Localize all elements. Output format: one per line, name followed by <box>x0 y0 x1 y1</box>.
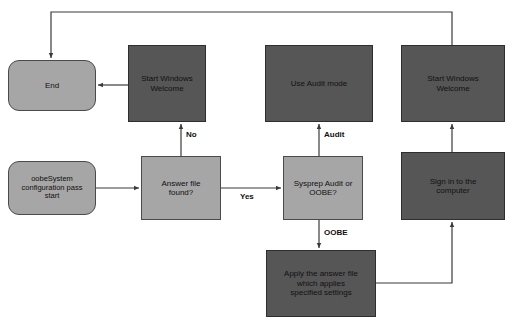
node-sysprep-audit-or-oobe[interactable]: Sysprep Audit or OOBE? <box>283 156 363 220</box>
node-use-audit-mode-label: Use Audit mode <box>291 79 347 88</box>
node-start-windows-welcome-1-label: Start Windows Welcome <box>141 74 193 93</box>
node-start-windows-welcome-1[interactable]: Start Windows Welcome <box>128 45 206 122</box>
node-start-windows-welcome-2-label: Start Windows Welcome <box>427 74 479 93</box>
node-sign-in-to-computer-label: Sign in to the computer <box>430 177 477 196</box>
node-sysprep-audit-or-oobe-label: Sysprep Audit or OOBE? <box>294 179 353 198</box>
node-end[interactable]: End <box>8 60 96 111</box>
edge-label-audit: Audit <box>324 131 344 139</box>
flowchart-canvas: Start Windows Welcome (1) --> Sysprep Au… <box>0 0 514 334</box>
node-apply-answer-file[interactable]: Apply the answer file which applies spec… <box>266 250 376 317</box>
edge-applyanswerfile-to-signin <box>376 222 452 283</box>
node-answer-file-found[interactable]: Answer file found? <box>141 156 221 220</box>
edge-label-oobe: OOBE <box>324 229 348 237</box>
node-answer-file-found-label: Answer file found? <box>161 179 200 198</box>
node-oobesystem-start-label: oobeSystem configuration pass start <box>22 175 83 202</box>
node-apply-answer-file-label: Apply the answer file which applies spec… <box>284 269 358 297</box>
node-sign-in-to-computer[interactable]: Sign in to the computer <box>401 152 505 220</box>
node-start-windows-welcome-2[interactable]: Start Windows Welcome <box>401 45 505 122</box>
edge-label-no: No <box>186 131 197 139</box>
edge-label-yes: Yes <box>240 193 254 201</box>
node-end-label: End <box>45 81 59 90</box>
edge-swwelcome2-to-end <box>51 12 452 58</box>
node-oobesystem-start[interactable]: oobeSystem configuration pass start <box>8 161 96 215</box>
node-use-audit-mode[interactable]: Use Audit mode <box>265 45 373 122</box>
